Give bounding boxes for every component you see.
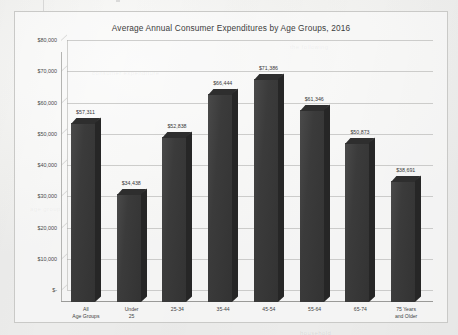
x-axis-category-label: All Age Groups: [63, 306, 109, 320]
x-axis-category-label: 25-34: [154, 306, 200, 313]
gridline: [67, 165, 433, 166]
y-axis-tick-label: $-: [52, 287, 57, 293]
bar-value-label: $61,346: [305, 96, 324, 102]
bar[interactable]: [208, 94, 232, 302]
bar[interactable]: [345, 143, 369, 302]
bar-side-face: [232, 89, 238, 302]
bar-side-face: [186, 131, 192, 302]
x-axis-category-label: 65-74: [337, 306, 383, 313]
bar-value-label: $52,838: [167, 123, 186, 129]
gridline: [67, 134, 433, 135]
x-axis-category-label: 35-44: [200, 306, 246, 313]
x-axis-category-label: 55-64: [292, 306, 338, 313]
bar-group: $57,311All Age Groups: [71, 113, 101, 302]
bar-side-face: [141, 189, 147, 302]
bar-group: $38,69175 Years and Older: [391, 171, 421, 302]
y-axis-tick-label: $70,000: [38, 68, 58, 74]
y-axis-tick-label: $20,000: [38, 225, 58, 231]
y-axis-line: [61, 52, 62, 302]
bar-group: $66,44435-44: [208, 84, 238, 302]
bar-group: $50,87365-74: [345, 133, 375, 302]
bar-group: $71,38645-54: [254, 69, 284, 302]
bar-side-face: [369, 138, 375, 302]
bar-side-face: [278, 74, 284, 302]
bar-value-label: $71,386: [259, 65, 278, 71]
bar-group: $34,438Under 25: [117, 184, 147, 302]
bar-value-label: $38,691: [396, 167, 415, 173]
bar-value-label: $66,444: [213, 80, 232, 86]
chart-container: Average Annual Consumer Expenditures by …: [14, 11, 448, 323]
bar-group: $61,34655-64: [300, 100, 330, 302]
bar[interactable]: [117, 194, 141, 302]
x-axis-category-label: 45-54: [246, 306, 292, 313]
bar-side-face: [95, 118, 101, 302]
x-axis-category-label: Under 25: [109, 306, 155, 320]
y-axis-tick-label: $50,000: [38, 131, 58, 137]
y-axis-tick-label: $30,000: [38, 193, 58, 199]
bar[interactable]: [300, 110, 324, 302]
bar-value-label: $34,438: [122, 180, 141, 186]
gridline: [67, 71, 433, 72]
bar[interactable]: [162, 137, 186, 302]
bar-side-face: [324, 105, 330, 302]
y-axis-tick-label: $60,000: [38, 100, 58, 106]
plot-area: $-$10,000$20,000$30,000$40,000$50,000$60…: [61, 46, 433, 302]
bar-value-label: $50,873: [350, 129, 369, 135]
gridline: [67, 40, 433, 41]
bar-group: $52,83825-34: [162, 127, 192, 302]
bar[interactable]: [254, 79, 278, 302]
bar-value-label: $57,311: [76, 109, 95, 115]
chart-title: Average Annual Consumer Expenditures by …: [15, 23, 447, 33]
ghost-text-4: household: [300, 330, 331, 335]
y-axis-tick-label: $40,000: [38, 162, 58, 168]
scan-artifact-tick: [116, 0, 120, 2]
bar-side-face: [415, 176, 421, 302]
bar[interactable]: [71, 123, 95, 302]
y-axis-tick-label: $80,000: [38, 37, 58, 43]
bar[interactable]: [391, 181, 415, 302]
gridline: [67, 103, 433, 104]
y-axis-tick-label: $10,000: [38, 256, 58, 262]
x-axis-category-label: 75 Years and Older: [383, 306, 429, 320]
